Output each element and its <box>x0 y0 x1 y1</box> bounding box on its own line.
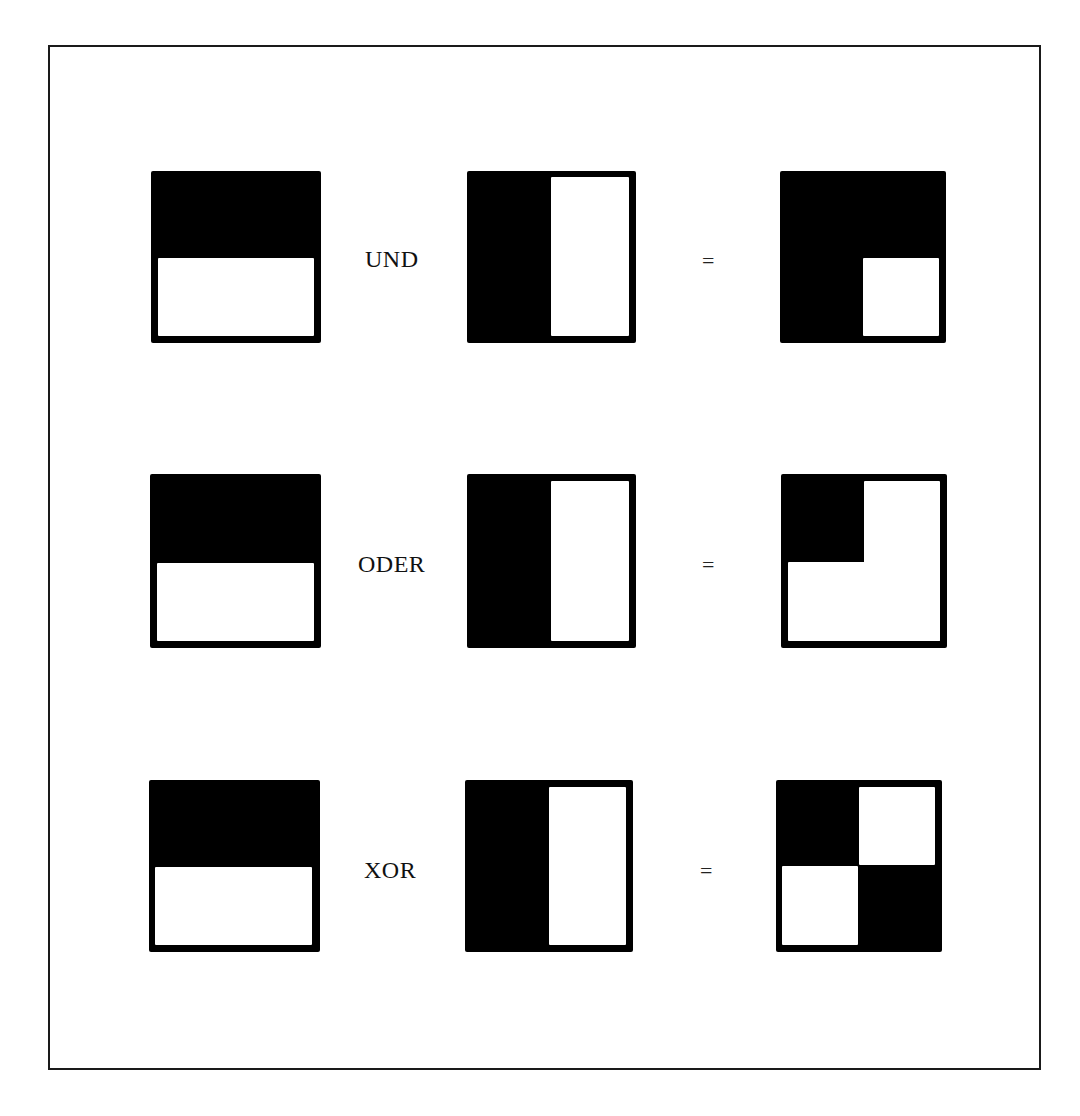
operator-label-und: UND <box>365 247 419 271</box>
white-region <box>155 867 312 945</box>
white-region <box>551 177 629 336</box>
white-region <box>782 866 858 945</box>
operator-label-xor: XOR <box>364 858 416 882</box>
row3-operand-b-left-half-black <box>465 780 633 952</box>
white-region <box>549 787 626 945</box>
white-region <box>157 563 314 641</box>
white-region <box>788 562 940 641</box>
row2-result-or <box>781 474 947 648</box>
equals-sign: = <box>700 860 712 882</box>
row3-operand-a-top-half-black <box>149 780 320 952</box>
row1-operand-b-left-half-black <box>467 171 636 343</box>
row2-operand-b-left-half-black <box>467 474 636 648</box>
equals-sign: = <box>702 554 714 576</box>
row1-operand-a-top-half-black <box>151 171 321 343</box>
operator-label-oder: ODER <box>358 552 425 576</box>
row3-result-xor <box>776 780 942 952</box>
white-region <box>551 481 629 641</box>
row1-result-and <box>780 171 946 343</box>
equals-sign: = <box>702 250 714 272</box>
white-region <box>863 258 939 336</box>
white-region <box>859 787 935 865</box>
white-region <box>158 258 314 336</box>
row2-operand-a-top-half-black <box>150 474 321 648</box>
